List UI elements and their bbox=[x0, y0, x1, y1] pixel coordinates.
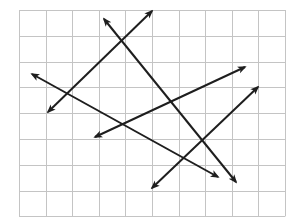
line-4 bbox=[95, 67, 245, 137]
grid bbox=[19, 10, 286, 217]
lines bbox=[32, 11, 258, 188]
line-2 bbox=[104, 19, 236, 182]
line-grid-diagram bbox=[0, 0, 297, 221]
